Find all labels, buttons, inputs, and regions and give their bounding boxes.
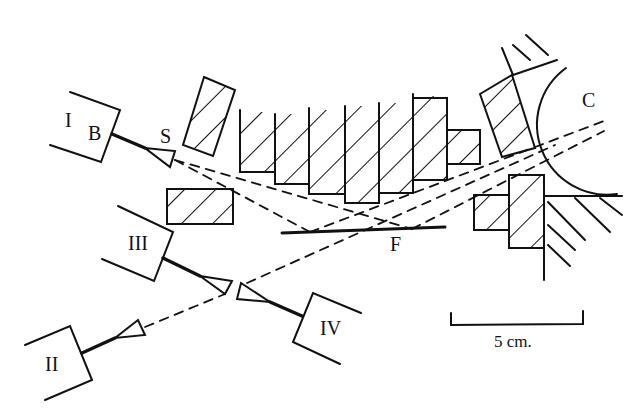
label-detector-4: IV: [320, 318, 341, 338]
label-b: B: [88, 123, 101, 143]
label-detector-1: I: [65, 110, 72, 130]
shield-block-lower-right: [474, 175, 622, 280]
label-foil: F: [390, 234, 401, 254]
detector-4: [237, 283, 361, 364]
scale-bar: [451, 311, 583, 325]
apparatus-diagram: I B S III II IV F C 5 cm.: [0, 0, 642, 417]
label-target: C: [582, 90, 595, 110]
shield-block-upper-right: [480, 35, 557, 157]
collimator-stack: [240, 94, 480, 203]
detector-2: [25, 320, 145, 400]
target-arc: [537, 68, 617, 195]
diagram-graphics: [0, 0, 642, 417]
label-detector-2: II: [45, 354, 58, 374]
shield-block-top-left: [183, 77, 235, 156]
label-detector-3: III: [128, 233, 148, 253]
shield-block-mid-left: [167, 189, 233, 224]
label-source: S: [160, 126, 171, 146]
scale-bar-label: 5 cm.: [494, 333, 532, 350]
